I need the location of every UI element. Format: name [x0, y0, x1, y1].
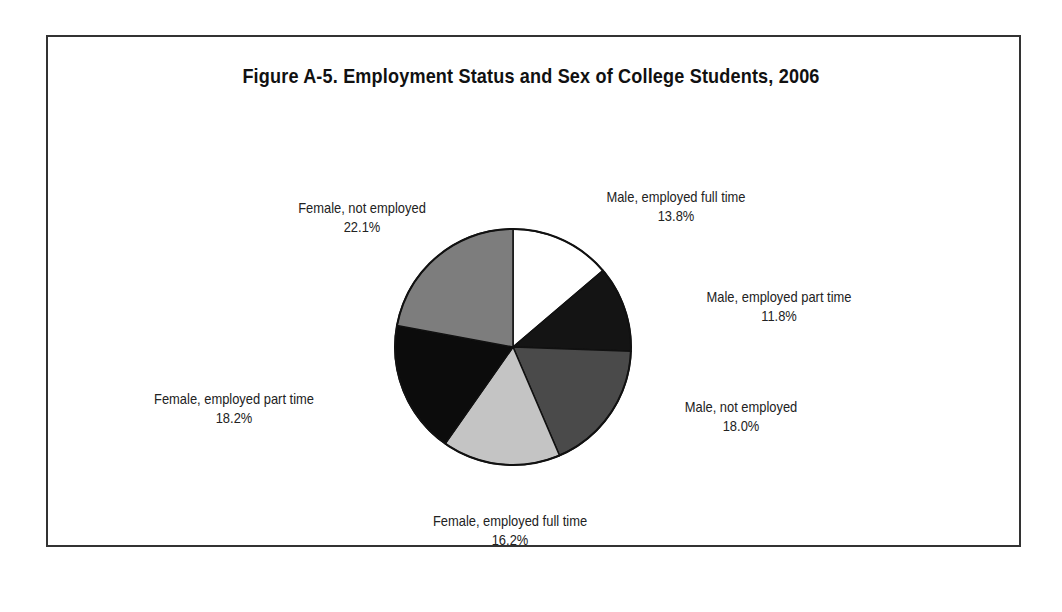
label-female-full-time: Female, employed full time16.2%: [407, 511, 613, 549]
label-male-full-time: Male, employed full time13.8%: [590, 187, 762, 225]
label-male-not-employed: Male, not employed18.0%: [655, 397, 827, 435]
label-male-part-time: Male, employed part time11.8%: [693, 287, 865, 325]
pie-slice-6: [397, 229, 513, 347]
label-female-not-employed: Female, not employed22.1%: [276, 198, 448, 236]
label-female-part-time: Female, employed part time18.2%: [139, 389, 328, 427]
